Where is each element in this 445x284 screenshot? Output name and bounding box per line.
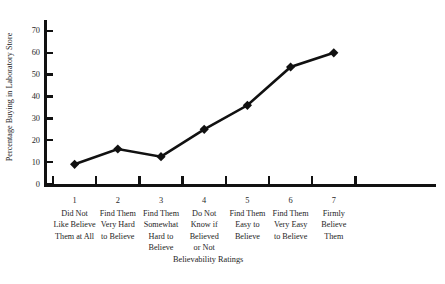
y-tick-label: 60: [14, 48, 40, 57]
y-tick-label: 10: [14, 158, 40, 167]
y-tick-label: 0: [14, 180, 40, 189]
plot-area: [44, 20, 436, 186]
x-category-label-line: or Not: [177, 242, 231, 253]
y-tick-label: 40: [14, 92, 40, 101]
data-point-marker: [113, 144, 122, 153]
x-category-label: FirmlyBelieveThem: [307, 208, 361, 242]
y-tick-label: 20: [14, 136, 40, 145]
x-axis-title: Believability Ratings: [108, 254, 308, 265]
data-series-line: [44, 20, 436, 186]
y-tick-label: 50: [14, 70, 40, 79]
chart-figure: Percentage Buying in Laboratory Store Be…: [0, 0, 445, 284]
y-tick-label: 30: [14, 114, 40, 123]
x-category-label-line: Firmly: [307, 208, 361, 219]
x-tick-label: 7: [307, 196, 361, 206]
x-category-label-line: Them: [307, 231, 361, 242]
data-point-marker: [70, 160, 79, 169]
x-category-label-line: Believe: [307, 219, 361, 230]
y-tick-label: 70: [14, 26, 40, 35]
data-point-marker: [329, 48, 338, 57]
